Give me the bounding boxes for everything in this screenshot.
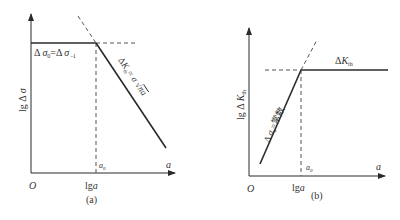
y-axis-label: lg Δ σ [17,87,28,112]
x-axis-label: a [166,159,171,170]
slope-line [96,43,166,148]
slope-label: ΔKth= σ √πa [116,56,150,99]
x-tick-label: lga [85,180,98,191]
panel-a: Δ σ0=Δ σ -1 ΔKth= σ √πa lg Δ σ a a0 O lg… [17,14,175,206]
slope-label: Δ σ0=常数 [261,105,287,144]
a0-label: a0 [306,163,313,173]
slope-extension-dashed [301,40,317,70]
plateau-label: ΔKth [335,55,353,67]
plateau-label: Δ σ0=Δ σ -1 [34,47,76,59]
caption-a: (a) [86,194,97,206]
x-axis-label: a [376,161,381,172]
panel-b: ΔKth Δ σ0=常数 lg Δ Kth a a0 O lga (b) [235,28,388,202]
y-axis-label: lg Δ Kth [235,90,247,120]
caption-b: (b) [311,190,323,202]
origin-label: O [29,180,36,191]
a0-label: a0 [99,161,106,171]
origin-label: O [247,183,254,194]
slope-extension-dashed [78,16,96,43]
diagram-canvas: Δ σ0=Δ σ -1 ΔKth= σ √πa lg Δ σ a a0 O lg… [0,0,400,220]
x-tick-label: lga [292,182,305,193]
